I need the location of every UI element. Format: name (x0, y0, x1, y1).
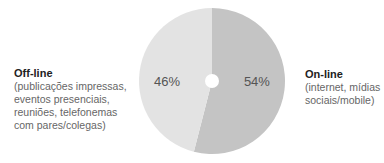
legend-online: On-line (internet, mídias sociais/mobile… (305, 68, 384, 107)
legend-online-title: On-line (305, 68, 384, 81)
legend-online-line: sociais/mobile) (305, 94, 384, 107)
legend-offline-line: reuniões, telefonemas (14, 106, 134, 119)
slice-label-offline: 46% (154, 74, 180, 89)
legend-offline-line: eventos presenciais, (14, 93, 134, 106)
legend-offline-line: (publicações impressas, (14, 80, 134, 93)
center-hole (205, 74, 219, 88)
legend-offline: Off-line (publicações impressas, eventos… (14, 67, 134, 132)
legend-online-line: (internet, mídias (305, 81, 384, 94)
legend-offline-title: Off-line (14, 67, 134, 80)
slice-label-online: 54% (244, 74, 270, 89)
legend-offline-line: com pares/colegas) (14, 119, 134, 132)
